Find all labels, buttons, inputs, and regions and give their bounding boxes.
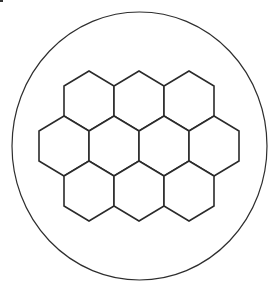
honeycomb-diagram [0,0,278,289]
hexagon-grid [39,71,239,221]
